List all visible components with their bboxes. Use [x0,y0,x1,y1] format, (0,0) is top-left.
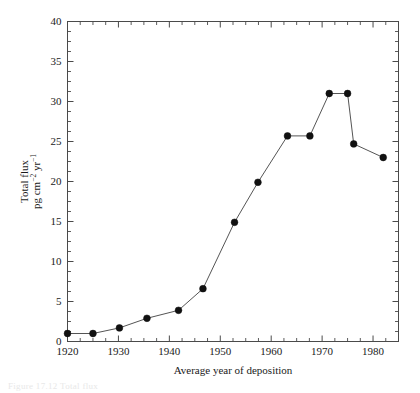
data-point [344,90,351,97]
x-tick-label: 1970 [311,345,334,357]
y-axis-title-line2: pg cm−2 yr−1 [29,154,43,209]
data-point [231,219,238,226]
data-point [284,133,291,140]
y-axis-ticks [68,22,399,342]
data-point [144,315,151,322]
y-tick-label: 15 [51,215,63,227]
x-axis-title: Average year of deposition [174,364,293,376]
axis-border [68,22,399,342]
y-axis-tick-labels: 0510152025303540 [51,15,63,347]
data-point [350,141,357,148]
y-tick-label: 20 [51,175,63,187]
data-point [200,285,207,292]
x-axis-tick-labels: 1920193019401950196019701980 [57,345,385,357]
y-tick-label: 0 [56,335,62,347]
x-axis-ticks [68,22,399,342]
y-tick-label: 25 [51,135,63,147]
data-point [306,133,313,140]
data-line [68,94,384,334]
x-tick-label: 1980 [362,345,385,357]
data-point [64,330,71,337]
flux-line-chart: 1920193019401950196019701980 05101520253… [0,0,420,393]
data-point [175,307,182,314]
x-tick-label: 1960 [260,345,283,357]
data-point [380,154,387,161]
x-tick-label: 1950 [209,345,232,357]
y-axis-title: Total fluxpg cm−2 yr−1 [18,154,42,209]
data-point [90,330,97,337]
x-tick-label: 1940 [158,345,181,357]
figure-caption: Figure 17.12 Total flux [8,381,98,391]
data-point [116,325,123,332]
y-tick-label: 40 [51,15,63,27]
figure-container: 1920193019401950196019701980 05101520253… [0,0,420,393]
plot-frame [68,22,399,342]
y-tick-label: 30 [51,95,63,107]
y-tick-label: 35 [51,55,63,67]
data-point [326,90,333,97]
data-series-total-flux [64,90,387,337]
y-tick-label: 10 [51,255,63,267]
x-tick-label: 1930 [107,345,130,357]
data-point [255,179,262,186]
y-tick-label: 5 [56,295,62,307]
